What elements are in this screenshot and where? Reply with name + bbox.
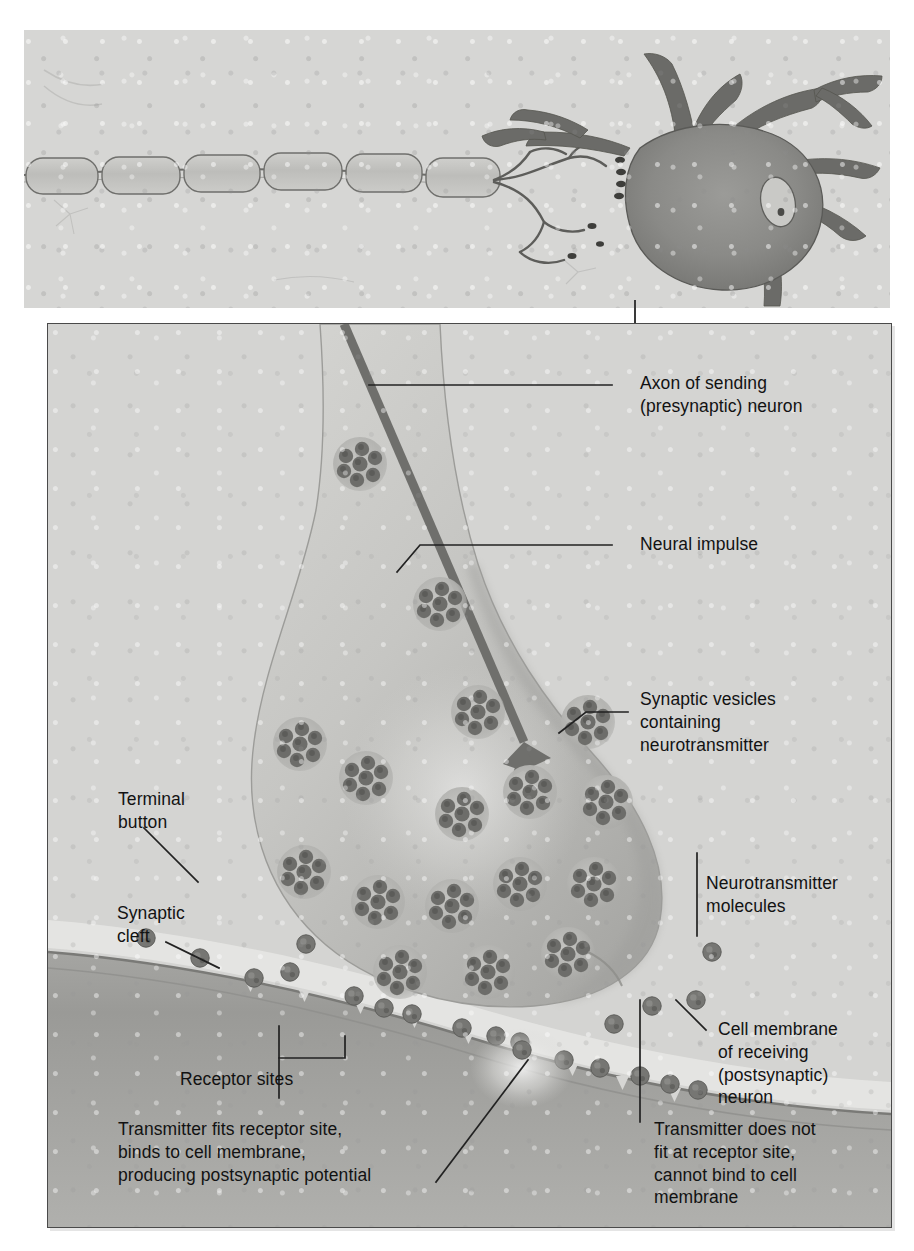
whole-neuron-overview-panel (24, 30, 890, 308)
label-axon-of-sending-neuron: Axon of sending (presynaptic) neuron (640, 372, 803, 418)
label-synaptic-vesicles: Synaptic vesicles containing neurotransm… (640, 688, 776, 756)
paper-grain-texture (24, 30, 890, 308)
label-terminal-button: Terminal button (118, 788, 185, 834)
label-receptor-sites: Receptor sites (180, 1068, 293, 1091)
panel-connector-line (634, 300, 636, 324)
label-cell-membrane-receiving: Cell membrane of receiving (postsynaptic… (718, 1018, 838, 1109)
label-neurotransmitter-molecules: Neurotransmitter molecules (706, 872, 838, 918)
label-transmitter-does-not-fit: Transmitter does not fit at receptor sit… (654, 1118, 816, 1209)
figure-page: Axon of sending (presynaptic) neuron Neu… (0, 0, 914, 1251)
label-synaptic-cleft: Synaptic cleft (117, 902, 185, 948)
label-neural-impulse: Neural impulse (640, 533, 758, 556)
label-transmitter-fits-receptor: Transmitter fits receptor site, binds to… (118, 1118, 371, 1186)
